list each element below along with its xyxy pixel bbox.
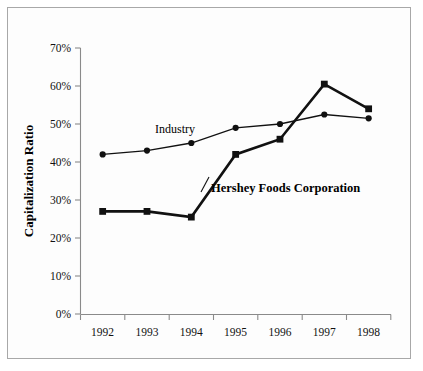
- hershey-data-point: [232, 151, 239, 158]
- x-tick-label-1995: 1995: [224, 326, 247, 338]
- industry-data-point: [188, 140, 194, 146]
- hershey-data-point: [321, 81, 328, 88]
- industry-data-point: [277, 121, 283, 127]
- y-tick-label: 40%: [50, 156, 72, 168]
- x-tick-label-1996: 1996: [269, 326, 292, 338]
- hershey-data-point: [188, 214, 195, 221]
- x-axis-tick-labels: 1992 1993 1994 1995 1996 1997 1998: [91, 326, 380, 338]
- industry-data-point: [321, 111, 327, 117]
- hershey-data-point: [144, 208, 151, 215]
- y-tick-label: 10%: [50, 270, 72, 282]
- industry-data-point: [100, 151, 106, 157]
- x-tick-label-1993: 1993: [136, 326, 159, 338]
- industry-data-point: [366, 115, 372, 121]
- industry-series-line: [103, 115, 369, 155]
- hershey-data-point: [365, 105, 372, 112]
- hershey-series-label: Hershey Foods Corporation: [211, 181, 360, 195]
- y-tick-label: 30%: [50, 194, 72, 206]
- hershey-data-point: [277, 136, 284, 143]
- y-tick-label: 60%: [50, 80, 72, 92]
- hershey-label-leader-line: [201, 177, 209, 192]
- x-tick-label-1998: 1998: [357, 326, 380, 338]
- x-axis-ticks: [81, 315, 391, 321]
- x-tick-label-1994: 1994: [180, 326, 203, 338]
- y-axis-tick-labels: 70% 60% 50% 40% 30% 20% 10% 0%: [50, 42, 72, 320]
- capitalization-ratio-line-chart: 70% 60% 50% 40% 30% 20% 10% 0% 1992 1993…: [0, 0, 423, 371]
- chart-container: 70% 60% 50% 40% 30% 20% 10% 0% 1992 1993…: [0, 0, 423, 371]
- industry-data-point: [144, 148, 150, 154]
- y-tick-label: 0%: [56, 308, 72, 320]
- industry-series-label: Industry: [155, 122, 195, 136]
- y-tick-label: 70%: [50, 42, 72, 54]
- y-tick-label: 50%: [50, 118, 72, 130]
- hershey-data-point: [99, 208, 106, 215]
- industry-data-point: [233, 125, 239, 131]
- x-tick-label-1992: 1992: [91, 326, 114, 338]
- y-axis-ticks: [75, 48, 81, 314]
- y-tick-label: 20%: [50, 232, 72, 244]
- x-tick-label-1997: 1997: [313, 326, 336, 338]
- y-axis-title: Capitalization Ratio: [21, 125, 36, 237]
